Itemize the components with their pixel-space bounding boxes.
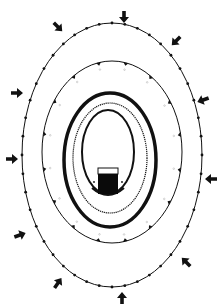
dot-marker xyxy=(24,191,27,194)
core-side-mark xyxy=(121,181,123,183)
dot-marker xyxy=(73,34,76,37)
dot-marker xyxy=(98,23,101,26)
dot-marker xyxy=(200,135,203,138)
dot-marker xyxy=(186,225,189,228)
core-body xyxy=(98,174,118,194)
dot-marker xyxy=(200,172,203,175)
dot-marker xyxy=(186,82,189,85)
dot-marker xyxy=(111,286,114,289)
dot-marker xyxy=(197,191,200,194)
dot-marker xyxy=(111,22,114,25)
dot-marker xyxy=(62,265,65,268)
dot-marker xyxy=(179,67,182,70)
dot-marker xyxy=(35,82,38,85)
core-cap xyxy=(98,168,118,174)
dot-marker xyxy=(197,116,200,119)
core-side-mark xyxy=(93,181,95,183)
dot-marker xyxy=(123,23,126,26)
dot-marker xyxy=(43,67,46,70)
dot-marker xyxy=(22,172,25,175)
dot-marker xyxy=(22,135,25,138)
dot-marker xyxy=(35,225,38,228)
dot-marker xyxy=(52,253,55,256)
dot-marker xyxy=(192,99,195,102)
dot-marker xyxy=(148,34,151,37)
background xyxy=(0,0,224,307)
dot-marker xyxy=(159,265,162,268)
dot-marker xyxy=(201,154,204,157)
dot-marker xyxy=(85,27,88,30)
dot-marker xyxy=(170,253,173,256)
dot-marker xyxy=(170,54,173,57)
dot-marker xyxy=(85,280,88,283)
dot-marker xyxy=(136,280,139,283)
dot-marker xyxy=(123,284,126,287)
dot-marker xyxy=(73,274,76,277)
dot-marker xyxy=(29,208,32,211)
dot-marker xyxy=(192,208,195,211)
dot-marker xyxy=(24,116,27,119)
dot-marker xyxy=(136,27,139,30)
dot-marker xyxy=(21,154,24,157)
dot-marker xyxy=(43,240,46,243)
dot-marker xyxy=(98,284,101,287)
dot-marker xyxy=(29,99,32,102)
concentric-zone-diagram xyxy=(0,0,224,307)
dot-marker xyxy=(52,54,55,57)
dot-marker xyxy=(179,240,182,243)
dot-marker xyxy=(148,274,151,277)
dot-marker xyxy=(159,43,162,46)
dot-marker xyxy=(62,43,65,46)
